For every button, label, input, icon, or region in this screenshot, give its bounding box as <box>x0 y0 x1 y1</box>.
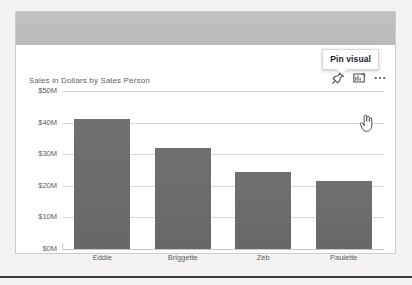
y-axis-tick-label: $0M <box>23 244 57 253</box>
bar-slot[interactable]: Briggette <box>143 45 224 249</box>
bar-briggette[interactable] <box>155 148 211 249</box>
bar-slot[interactable]: Zeb <box>223 45 304 249</box>
hand-cursor-pointer <box>359 113 376 134</box>
x-axis-line <box>62 249 384 250</box>
x-axis-category-label: Briggette <box>168 253 198 262</box>
page-divider-rule <box>0 276 412 278</box>
y-axis-tick-label: $40M <box>23 118 57 127</box>
focus-mode-icon[interactable] <box>352 71 366 85</box>
pin-visual-tooltip-label: Pin visual <box>330 54 371 64</box>
bar-slot[interactable]: Eddie <box>62 45 143 249</box>
report-header-band <box>16 12 395 45</box>
y-axis-tick-label: $10M <box>23 212 57 221</box>
report-visual-card: Pin visual <box>15 11 396 254</box>
visual-action-bar: Pin visual <box>331 71 387 85</box>
pin-visual-tooltip: Pin visual <box>322 49 379 70</box>
tooltip-arrow <box>337 69 347 74</box>
x-axis-category-label: Paulette <box>330 253 358 262</box>
y-axis-tick-label: $30M <box>23 149 57 158</box>
bar-zeb[interactable] <box>235 172 291 249</box>
y-axis-tick-label: $50M <box>23 86 57 95</box>
y-axis-tick-label: $20M <box>23 181 57 190</box>
visual-container[interactable]: Pin visual <box>16 45 395 253</box>
x-axis-category-label: Zeb <box>257 253 270 262</box>
more-options-icon[interactable] <box>373 71 387 85</box>
bar-paulette[interactable] <box>316 181 372 249</box>
x-axis-category-label: Eddie <box>93 253 112 262</box>
bar-eddie[interactable] <box>74 119 130 249</box>
